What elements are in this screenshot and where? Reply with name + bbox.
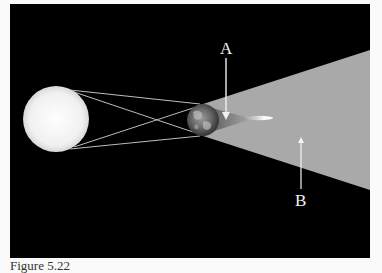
label-b: B (295, 192, 306, 209)
sun (23, 86, 89, 152)
moon-streak (245, 116, 273, 120)
tangent-lines (70, 90, 200, 149)
label-a: A (220, 40, 232, 57)
outer-tangent-bottom (70, 136, 200, 149)
earth (187, 104, 219, 136)
figure-caption: Figure 5.22 (10, 259, 70, 272)
